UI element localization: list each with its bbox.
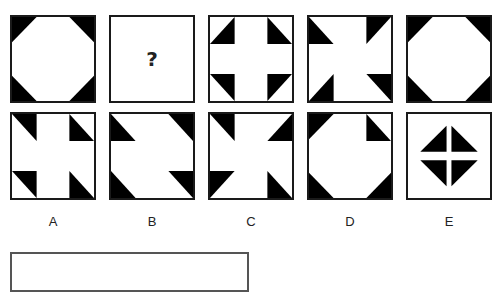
option-c[interactable] (208, 112, 294, 200)
cross-notches-icon (210, 17, 292, 101)
option-label-d: D (307, 214, 393, 229)
variant-d-icon (309, 114, 391, 198)
pinwheel-icon (309, 17, 391, 101)
option-b[interactable] (109, 112, 195, 200)
option-label-b: B (109, 214, 195, 229)
option-label-a: A (10, 214, 96, 229)
sequence-tile-5 (406, 15, 492, 103)
answer-input-box[interactable] (10, 252, 249, 292)
octagon-corners-icon (12, 17, 94, 101)
sequence-tile-3 (208, 15, 294, 103)
variant-b-icon (111, 114, 193, 198)
variant-c-icon (210, 114, 292, 198)
option-label-e: E (406, 214, 492, 229)
option-a[interactable] (10, 112, 96, 200)
option-d[interactable] (307, 112, 393, 200)
inner-diamond-icon (408, 114, 490, 198)
sequence-tile-4 (307, 15, 393, 103)
variant-a-icon (12, 114, 94, 198)
option-label-c: C (208, 214, 294, 229)
sequence-tile-2-missing: ? (109, 15, 195, 103)
question-mark: ? (111, 17, 193, 101)
option-e[interactable] (406, 112, 492, 200)
octagon-corners-icon (408, 17, 490, 101)
sequence-tile-1 (10, 15, 96, 103)
